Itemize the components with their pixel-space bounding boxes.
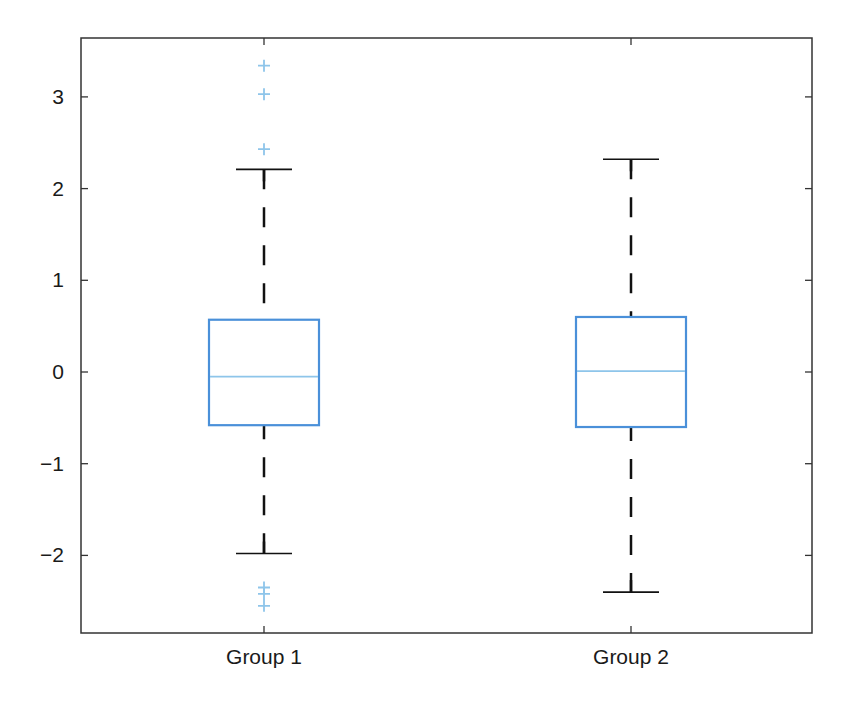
outlier-marker — [258, 600, 270, 612]
x-tick-label: Group 1 — [226, 645, 302, 668]
y-axis: −2−10123 — [40, 85, 812, 567]
outlier-marker — [258, 60, 270, 72]
x-tick-label: Group 2 — [593, 645, 669, 668]
y-tick-label: −2 — [40, 543, 64, 566]
plot-area — [209, 60, 686, 612]
y-tick-label: 3 — [52, 85, 64, 108]
outlier-marker — [258, 143, 270, 155]
iqr-box — [209, 320, 319, 425]
axes-frame — [81, 38, 812, 633]
outlier-marker — [258, 88, 270, 100]
box-plot-chart: −2−10123 Group 1Group 2 — [0, 0, 847, 703]
box-group-2 — [576, 159, 686, 592]
box-group-1 — [209, 60, 319, 612]
y-tick-label: 2 — [52, 177, 64, 200]
y-tick-label: 0 — [52, 360, 64, 383]
y-tick-label: −1 — [40, 452, 64, 475]
y-tick-label: 1 — [52, 268, 64, 291]
outlier-marker — [258, 588, 270, 600]
iqr-box — [576, 317, 686, 427]
